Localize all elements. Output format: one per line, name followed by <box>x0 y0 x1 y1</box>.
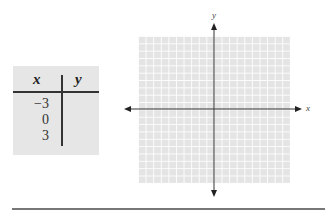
y-axis-down-arrow-icon <box>211 190 217 197</box>
x-axis-label: x <box>306 103 310 113</box>
x-axis-right-arrow-icon <box>295 106 302 112</box>
bottom-rule <box>12 208 325 210</box>
y-axis-up-arrow-icon <box>211 23 217 30</box>
y-axis-label: y <box>212 10 216 20</box>
coordinate-axes <box>0 0 330 213</box>
x-axis-left-arrow-icon <box>124 106 131 112</box>
